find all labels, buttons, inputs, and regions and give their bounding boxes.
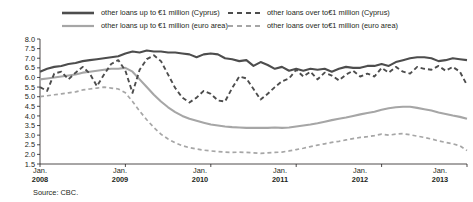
y-tick-label: 8.0 [25, 35, 35, 44]
y-tick-label: 5.0 [25, 92, 35, 101]
legend-label: other loans over to€1 million (Cyprus) [267, 8, 390, 17]
series-line-3 [40, 87, 467, 153]
x-tick-month: Jan. [173, 166, 227, 175]
y-tick-label: 2.5 [25, 140, 35, 149]
y-tick-label: 6.0 [25, 73, 35, 82]
x-tick-2009: Jan. 2009 [93, 166, 147, 184]
legend-line-solid-dark-icon [62, 8, 94, 18]
x-tick-year: 2008 [13, 175, 67, 184]
source-note: Source: CBC. [33, 188, 78, 197]
x-tick-month: Jan. [253, 166, 307, 175]
legend-entry-cyprus-up-to-1m: other loans up to €1 million (Cyprus) [62, 6, 228, 19]
y-tick-label: 4.5 [25, 102, 35, 111]
legend-column-right: other loans over to€1 million (Cyprus) o… [228, 6, 398, 32]
legend-line-solid-light-icon [62, 21, 94, 31]
y-tick-label: 6.5 [25, 63, 35, 72]
chart-canvas: 8.07.57.06.56.05.55.04.54.03.53.02.52.01… [0, 34, 473, 169]
x-tick-year: 2011 [253, 175, 307, 184]
legend-entry-euroarea-up-to-1m: other loans up to €1 million (euro area) [62, 19, 228, 32]
series-line-0 [40, 51, 467, 72]
x-tick-year: 2009 [93, 175, 147, 184]
series-line-2 [40, 55, 467, 102]
chart-legend: other loans up to €1 million (Cyprus) ot… [0, 6, 473, 34]
x-tick-year: 2013 [413, 175, 467, 184]
data-series-group [40, 51, 467, 154]
y-axis: 8.07.57.06.56.05.55.04.54.03.53.02.52.01… [25, 35, 40, 169]
legend-label: other loans up to €1 million (Cyprus) [101, 8, 220, 17]
x-tick-2013: Jan. 2013 [413, 166, 467, 184]
legend-label: other loans over to€1 million (euro area… [267, 21, 398, 30]
x-tick-2010: Jan. 2010 [173, 166, 227, 184]
y-tick-label: 5.5 [25, 83, 35, 92]
chart-plot-area: 8.07.57.06.56.05.55.04.54.03.53.02.52.01… [0, 34, 473, 169]
x-tick-month: Jan. [93, 166, 147, 175]
x-tick-month: Jan. [333, 166, 387, 175]
series-line-1 [40, 68, 467, 128]
legend-column-left: other loans up to €1 million (Cyprus) ot… [62, 6, 228, 32]
y-tick-label: 3.0 [25, 131, 35, 140]
x-tick-2008: Jan. 2008 [13, 166, 67, 184]
y-tick-label: 7.5 [25, 44, 35, 53]
x-tick-2012: Jan. 2012 [333, 166, 387, 184]
x-tick-year: 2010 [173, 175, 227, 184]
legend-line-dashed-dark-icon [228, 8, 260, 18]
x-tick-2011: Jan. 2011 [253, 166, 307, 184]
y-tick-label: 4.0 [25, 112, 35, 121]
y-tick-label: 7.0 [25, 54, 35, 63]
y-tick-label: 2.0 [25, 150, 35, 159]
x-tick-year: 2012 [333, 175, 387, 184]
y-tick-label: 3.5 [25, 121, 35, 130]
chart-figure: other loans up to €1 million (Cyprus) ot… [0, 0, 473, 202]
legend-line-dashed-light-icon [228, 21, 260, 31]
legend-entry-cyprus-over-1m: other loans over to€1 million (Cyprus) [228, 6, 398, 19]
x-tick-month: Jan. [13, 166, 67, 175]
legend-entry-euroarea-over-1m: other loans over to€1 million (euro area… [228, 19, 398, 32]
x-tick-month: Jan. [413, 166, 467, 175]
legend-label: other loans up to €1 million (euro area) [101, 21, 228, 30]
